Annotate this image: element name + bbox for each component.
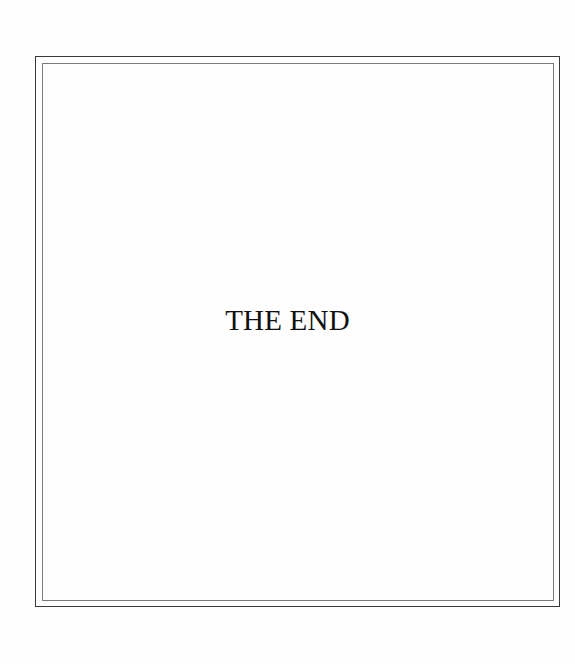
the-end-title: THE END <box>0 304 575 337</box>
